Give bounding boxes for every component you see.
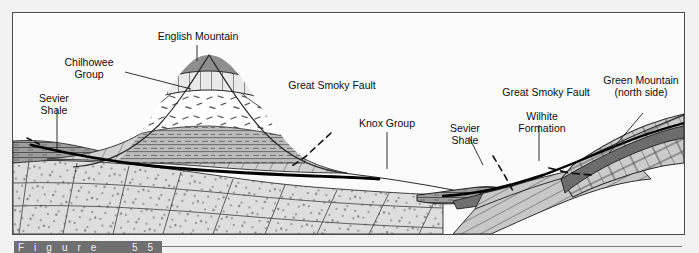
caption-text: Figure 55-10	[18, 242, 162, 253]
figure-root: English Mountain Chilhowee Group Sevier …	[0, 0, 699, 253]
label-sevier-shale-left: Sevier Shale	[21, 93, 87, 116]
cross-section-figure: English Mountain Chilhowee Group Sevier …	[12, 12, 685, 235]
label-great-smoky-fault-right: Great Smoky Fault	[491, 87, 601, 99]
label-knox-group: Knox Group	[346, 118, 428, 130]
label-sevier-shale-right: Sevier Shale	[434, 123, 496, 146]
caption-rule	[162, 246, 682, 247]
label-great-smoky-fault-left: Great Smoky Fault	[277, 80, 387, 92]
label-green-mountain: Green Mountain (north side)	[595, 75, 685, 98]
label-chilhowee-group: Chilhowee Group	[51, 57, 127, 80]
caption-bar: Figure 55-10	[14, 241, 162, 253]
label-wilhite-formation: Wilhite Formation	[507, 111, 577, 134]
label-english-mountain: English Mountain	[146, 31, 250, 43]
